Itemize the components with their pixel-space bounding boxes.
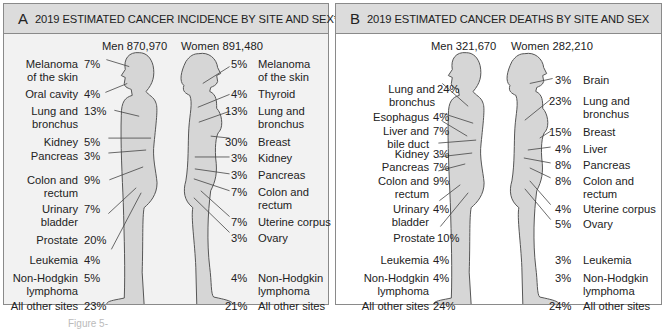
- women-total: Women 891,480: [181, 40, 263, 52]
- panel-header: A 2019 ESTIMATED CANCER INCIDENCE BY SIT…: [4, 4, 328, 34]
- panel-deaths: B 2019 ESTIMATED CANCER DEATHS BY SITE A…: [335, 3, 662, 305]
- women-site-pct: 4%: [555, 143, 571, 156]
- women-site-pct: 24%: [549, 300, 571, 313]
- women-site-label: Lung andbronchus: [258, 105, 305, 130]
- men-site-pct: 20%: [84, 234, 106, 247]
- women-site-label: Non-Hodgkinlymphoma: [583, 272, 648, 297]
- men-site-pct: 9%: [84, 174, 100, 187]
- women-site-pct: 3%: [231, 169, 247, 182]
- women-site-pct: 15%: [549, 126, 571, 139]
- men-site-pct: 7%: [433, 161, 449, 174]
- men-site-pct: 24%: [437, 83, 459, 96]
- men-site-label: Leukemia: [380, 254, 429, 267]
- men-site-pct: 23%: [84, 300, 106, 313]
- women-site-label: Colon andrectum: [583, 175, 634, 200]
- women-site-pct: 7%: [231, 186, 247, 199]
- women-site-pct: 4%: [555, 203, 571, 216]
- men-site-pct: 5%: [84, 272, 100, 285]
- men-site-label: Liver andbile duct: [383, 125, 429, 150]
- women-site-pct: 3%: [555, 254, 571, 267]
- men-site-pct: 4%: [433, 203, 449, 216]
- men-total: Men 870,970: [102, 40, 167, 52]
- women-site-pct: 13%: [225, 105, 247, 118]
- women-site-label: Ovary: [258, 232, 288, 245]
- men-site-label: Urinarybladder: [41, 203, 78, 228]
- men-site-label: Non-Hodgkinlymphoma: [364, 272, 429, 297]
- women-site-pct: 3%: [555, 74, 571, 87]
- women-site-pct: 4%: [231, 272, 247, 285]
- men-site-pct: 24%: [433, 300, 455, 313]
- women-site-pct: 21%: [225, 300, 247, 313]
- female-silhouette-icon: [181, 53, 233, 304]
- men-site-label: Colon andrectum: [378, 175, 429, 200]
- women-site-label: Leukemia: [583, 254, 632, 267]
- women-site-label: Non-Hodgkinlymphoma: [258, 272, 323, 297]
- men-site-label: Prostate: [393, 232, 435, 245]
- men-site-pct: 4%: [84, 254, 100, 267]
- women-site-pct: 7%: [231, 216, 247, 229]
- panel-incidence: A 2019 ESTIMATED CANCER INCIDENCE BY SIT…: [3, 3, 329, 305]
- men-site-label: Leukemia: [29, 254, 78, 267]
- women-site-pct: 23%: [549, 95, 571, 108]
- panel-title: 2019 ESTIMATED CANCER INCIDENCE BY SITE …: [35, 13, 338, 25]
- women-site-pct: 8%: [555, 175, 571, 188]
- men-site-label: All other sites: [11, 300, 78, 313]
- men-leader-lines: [105, 60, 151, 250]
- men-site-pct: 3%: [84, 150, 100, 163]
- figure-caption: Figure 5-: [68, 318, 108, 329]
- women-site-label: All other sites: [583, 300, 650, 313]
- men-site-pct: 5%: [84, 136, 100, 149]
- men-site-pct: 10%: [437, 232, 459, 245]
- men-site-pct: 4%: [433, 254, 449, 267]
- women-site-label: Liver: [583, 143, 607, 156]
- women-site-pct: 5%: [231, 58, 247, 71]
- men-site-pct: 7%: [84, 58, 100, 71]
- panel-header: B 2019 ESTIMATED CANCER DEATHS BY SITE A…: [336, 4, 661, 34]
- women-total: Women 282,210: [511, 40, 593, 52]
- men-site-pct: 7%: [84, 203, 100, 216]
- women-site-label: Colon andrectum: [258, 186, 309, 211]
- women-site-label: Pancreas: [583, 159, 630, 172]
- men-site-label: Prostate: [36, 234, 78, 247]
- women-site-label: Kidney: [258, 152, 292, 165]
- men-site-label: Non-Hodgkinlymphoma: [13, 272, 78, 297]
- women-site-label: Lung andbronchus: [583, 95, 630, 120]
- women-site-pct: 5%: [555, 218, 571, 231]
- men-site-label: Kidney: [44, 136, 78, 149]
- women-site-pct: 3%: [231, 232, 247, 245]
- panel-letter: B: [350, 10, 360, 27]
- panel-title: 2019 ESTIMATED CANCER DEATHS BY SITE AND…: [367, 13, 649, 25]
- men-site-label: Colon andrectum: [27, 174, 78, 199]
- women-leader-lines: [194, 67, 230, 233]
- women-site-label: Melanomaof the skin: [258, 58, 310, 83]
- women-site-label: Breast: [258, 136, 290, 149]
- women-site-pct: 3%: [231, 152, 247, 165]
- male-silhouette-icon: [107, 53, 157, 304]
- men-site-label: Pancreas: [31, 150, 78, 163]
- men-site-label: Lung andbronchus: [388, 83, 435, 108]
- panel-letter: A: [18, 10, 28, 27]
- men-site-pct: 13%: [84, 105, 106, 118]
- women-site-label: Pancreas: [258, 169, 305, 182]
- men-site-label: Melanomaof the skin: [26, 58, 78, 83]
- men-site-label: Urinarybladder: [392, 203, 429, 228]
- men-site-label: Lung andbronchus: [31, 105, 78, 130]
- men-site-pct: 4%: [84, 88, 100, 101]
- men-total: Men 321,670: [431, 40, 496, 52]
- women-site-label: Breast: [583, 126, 615, 139]
- women-site-label: Brain: [583, 74, 609, 87]
- women-site-label: Thyroid: [258, 88, 295, 101]
- men-site-pct: 4%: [433, 111, 449, 124]
- women-site-pct: 8%: [555, 159, 571, 172]
- men-site-label: All other sites: [362, 300, 429, 313]
- men-site-pct: 7%: [433, 125, 449, 138]
- women-site-label: Uterine corpus: [583, 203, 656, 216]
- men-site-label: Kidney: [395, 148, 429, 161]
- men-site-label: Oral cavity: [25, 88, 78, 101]
- women-site-label: Uterine corpus: [258, 216, 331, 229]
- women-site-label: Ovary: [583, 218, 613, 231]
- women-site-pct: 4%: [231, 88, 247, 101]
- women-site-label: All other sites: [258, 300, 325, 313]
- female-silhouette-icon: [507, 53, 559, 304]
- women-site-pct: 3%: [555, 272, 571, 285]
